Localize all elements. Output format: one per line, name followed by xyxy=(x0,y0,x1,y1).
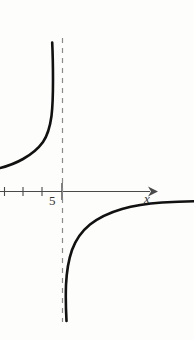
curve-upper-left xyxy=(0,43,53,169)
plot-canvas xyxy=(0,0,194,340)
x-tick-label-5: 5 xyxy=(49,194,56,207)
graph-figure: 5 x xyxy=(0,0,194,340)
x-axis-label: x xyxy=(144,192,150,205)
x-axis-group xyxy=(0,187,158,197)
curve-lower-right xyxy=(66,201,194,321)
